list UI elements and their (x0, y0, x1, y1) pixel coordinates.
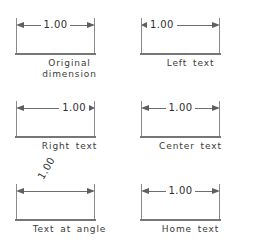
dimension-drawing: 1.00 (141, 101, 220, 137)
dimension-line: 1.00 (16, 18, 95, 32)
arrowhead-right-icon (212, 105, 220, 111)
dimension-text: 1.00 (59, 103, 89, 113)
dimension-line-segment-left (149, 108, 166, 109)
arrowhead-right-icon (87, 188, 95, 194)
panel-caption: Right text (0, 141, 133, 152)
panel-right-text: 1.00 Right text (0, 83, 127, 166)
dimension-drawing: 1.00 (16, 101, 95, 137)
dimension-drawing: 1.00 (16, 184, 95, 220)
caption-line-1: Left text (167, 58, 215, 68)
dimension-line-segment-left (24, 108, 59, 109)
caption-line-1: Original (48, 58, 90, 68)
panel-caption: Left text (127, 58, 254, 69)
dimension-line-segment (24, 191, 87, 192)
panel-left-text: 1.00 Left text (127, 0, 254, 83)
arrowhead-left-icon (16, 22, 24, 28)
dimension-line-segment-left (24, 25, 41, 26)
dimension-line-gap (43, 183, 65, 187)
arrowhead-left-icon (16, 105, 24, 111)
dimension-text: 1.00 (41, 20, 71, 30)
panel-center-text: 1.00 Center text (127, 83, 254, 166)
dimension-line: 1.00 (16, 184, 95, 198)
object-baseline (15, 53, 96, 55)
dimension-line: 1.00 (141, 184, 220, 198)
panel-original-dimension: 1.00 Original dimension (0, 0, 127, 83)
dimension-text: 1.00 (147, 20, 177, 30)
dimension-drawing: 1.00 (141, 18, 220, 54)
dimension-line: 1.00 (16, 101, 95, 115)
caption-line-2: dimension (6, 69, 133, 80)
dimension-line-segment-right (177, 25, 212, 26)
object-baseline (15, 219, 96, 221)
caption-line-1: Right text (42, 141, 97, 151)
arrowhead-left-icon (141, 105, 149, 111)
dimension-line: 1.00 (141, 101, 220, 115)
object-baseline (140, 136, 221, 138)
dimension-drawing: 1.00 (16, 18, 95, 54)
object-baseline (15, 136, 96, 138)
dimension-line-segment-right (195, 108, 212, 109)
caption-line-1: Center text (159, 141, 222, 151)
caption-line-1: Text at angle (33, 224, 107, 234)
arrowhead-right-icon (212, 22, 220, 28)
panel-caption: Home text (127, 224, 254, 235)
arrowhead-left-icon (141, 188, 149, 194)
caption-line-1: Home text (162, 224, 219, 234)
panel-text-at-angle: 1.00 Text at angle (0, 166, 127, 249)
panel-home-text: 1.00 Home text (127, 166, 254, 249)
arrowhead-right-icon (87, 22, 95, 28)
arrowhead-right-icon (212, 188, 220, 194)
object-baseline (140, 53, 221, 55)
dimension-line-segment-left (149, 191, 166, 192)
dimension-line-segment-right (70, 25, 87, 26)
dimension-line-segment-right (195, 191, 212, 192)
panel-caption: Center text (127, 141, 254, 152)
object-baseline (140, 219, 221, 221)
dimension-text: 1.00 (166, 103, 196, 113)
panel-caption: Text at angle (0, 224, 133, 235)
arrowhead-left-icon (16, 188, 24, 194)
dimension-drawing: 1.00 (141, 184, 220, 220)
arrowhead-right-icon (89, 105, 95, 111)
panel-caption: Original dimension (0, 58, 133, 80)
dimension-line: 1.00 (141, 18, 220, 32)
dimension-style-figure: 1.00 Original dimension 1.00 Left text (0, 0, 254, 250)
dimension-text: 1.00 (166, 186, 196, 196)
